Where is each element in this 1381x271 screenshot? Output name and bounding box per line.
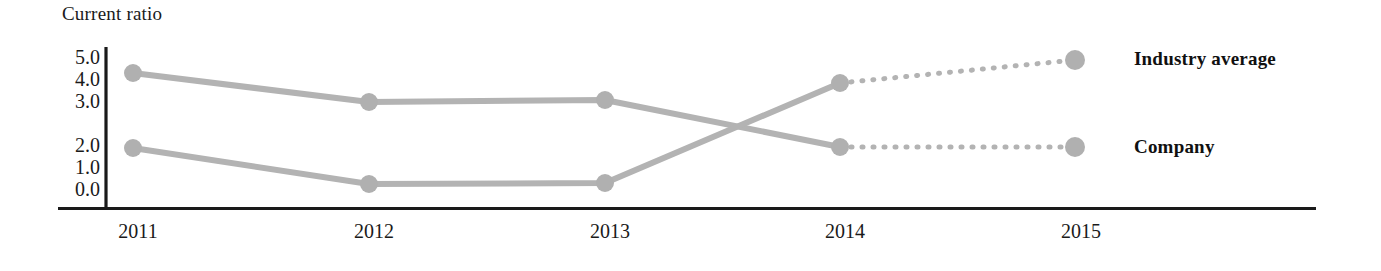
- data-point-company-2011: [124, 64, 142, 82]
- data-point-company-2012: [360, 93, 378, 111]
- series-industry-average: [124, 50, 1085, 193]
- series-company: [124, 64, 1085, 157]
- x-tick-2011: 2011: [118, 221, 157, 241]
- legend-label-industry-average: Industry average: [1134, 49, 1276, 68]
- data-point-industry-average-2013: [596, 174, 614, 192]
- data-point-industry-average-2011: [124, 139, 142, 157]
- data-point-company-2013: [596, 91, 614, 109]
- x-tick-2012: 2012: [354, 221, 394, 241]
- x-tick-2014: 2014: [825, 221, 865, 241]
- data-point-company-2014: [831, 138, 849, 156]
- data-point-industry-average-2014: [831, 74, 849, 92]
- x-tick-2015: 2015: [1061, 221, 1101, 241]
- data-point-industry-average-2012: [360, 175, 378, 193]
- current-ratio-line-chart: Current ratio 5.0 4.0 3.0 2.0 1.0 0.0: [0, 0, 1381, 271]
- data-point-company-2015: [1065, 137, 1085, 157]
- series-company-solid-line: [133, 73, 840, 147]
- data-point-industry-average-2015: [1065, 50, 1085, 70]
- series-industry-average-dotted-line: [840, 60, 1075, 83]
- legend-label-company: Company: [1134, 137, 1215, 156]
- x-tick-2013: 2013: [590, 221, 630, 241]
